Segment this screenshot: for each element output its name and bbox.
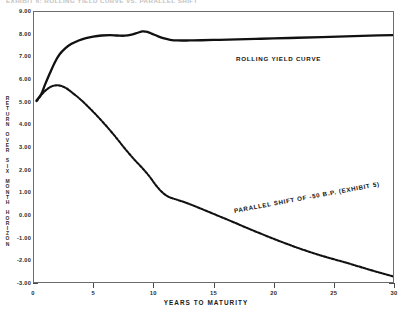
x-tick-mark [153, 283, 154, 288]
y-tick-label: 2.00 [19, 167, 31, 173]
y-tick-label: 7.00 [19, 53, 31, 59]
x-tick-mark [93, 283, 94, 288]
top-caption-text: EXHIBIT 6: ROLLING YIELD CURVE VS. PARAL… [6, 0, 221, 4]
series-line-1 [37, 85, 393, 276]
x-tick-label: 30 [391, 290, 398, 296]
top-caption: EXHIBIT 6: ROLLING YIELD CURVE VS. PARAL… [6, 0, 221, 7]
y-tick-label: -1.00 [17, 235, 31, 241]
rolling-yield-curve-label: ROLLING YIELD CURVE [236, 55, 321, 62]
y-tick-label: 4.00 [19, 121, 31, 127]
y-tick-label: -3.00 [17, 280, 31, 286]
y-axis-tick-labels: -3.00-2.00-1.000.001.002.003.004.005.006… [0, 0, 31, 314]
x-tick-mark [394, 283, 395, 288]
y-tick-label: -2.00 [17, 257, 31, 263]
x-tick-label: 15 [210, 290, 217, 296]
y-tick-label: 0.00 [19, 212, 31, 218]
y-tick-label: 1.00 [19, 189, 31, 195]
y-tick-label: 8.00 [19, 31, 31, 37]
y-tick-label: 9.00 [19, 8, 31, 14]
x-tick-label: 0 [31, 290, 34, 296]
y-tick-label: 5.00 [19, 99, 31, 105]
y-tick-label: 6.00 [19, 76, 31, 82]
x-tick-label: 10 [150, 290, 157, 296]
plot-lines [34, 12, 393, 282]
x-tick-mark [334, 283, 335, 288]
x-tick-label: 20 [270, 290, 277, 296]
y-tick-label: 3.00 [19, 144, 31, 150]
plot-area [33, 11, 394, 283]
x-axis-title: YEARS TO MATURITY [0, 299, 412, 306]
x-tick-label: 5 [91, 290, 94, 296]
series-line-0 [37, 31, 393, 100]
x-tick-label: 25 [330, 290, 337, 296]
y-tick-mark [33, 283, 38, 284]
x-tick-mark [274, 283, 275, 288]
x-tick-mark [214, 283, 215, 288]
